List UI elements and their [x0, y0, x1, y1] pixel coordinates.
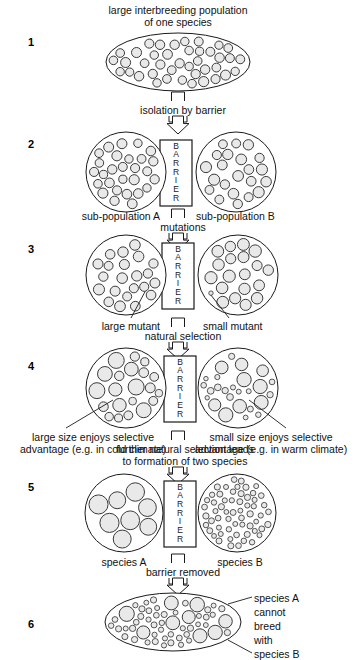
organism-cell: [253, 379, 267, 393]
organism-cell: [185, 62, 193, 70]
organism-cell: [149, 157, 158, 166]
organism-cell: [210, 612, 215, 617]
organism-cell: [104, 142, 114, 152]
organism-cell: [206, 47, 215, 56]
organism-cell: [252, 261, 262, 271]
barrier-letter: R: [175, 296, 181, 306]
label-sub-population-a: sub-population A: [46, 210, 160, 222]
organism-cell: [100, 513, 119, 532]
organism-cell: [131, 164, 140, 173]
label-final-line5: species B: [254, 648, 358, 660]
organism-cell: [249, 540, 254, 545]
organism-cell: [202, 504, 208, 510]
organism-cell: [229, 498, 234, 503]
organism-cell: [168, 632, 174, 638]
organism-cell: [244, 494, 250, 500]
connector-bracket-mutations: [172, 209, 185, 218]
organism-cell: [113, 530, 131, 548]
organism-cell: [205, 185, 214, 194]
organism-cell: [269, 379, 275, 385]
organism-cell: [215, 195, 224, 204]
organism-cell: [244, 193, 253, 202]
organism-cell: [239, 515, 245, 521]
label-final-line2: cannot: [254, 606, 358, 618]
organism-cell: [163, 75, 172, 84]
organism-cell: [184, 632, 190, 638]
organism-cell: [220, 180, 229, 189]
leader-line-final-species-b: [228, 640, 252, 653]
organism-cell: [223, 149, 233, 159]
organism-cell: [156, 60, 165, 69]
organism-cell: [170, 40, 179, 49]
organism-cell: [223, 270, 235, 282]
organism-cell: [115, 371, 124, 380]
organism-cell: [233, 171, 244, 182]
organism-cell: [158, 627, 163, 632]
organism-cell: [233, 521, 238, 526]
bracket-path: [172, 554, 185, 563]
step-number-1: 1: [28, 36, 34, 48]
organism-cell: [237, 499, 243, 505]
organism-cell: [136, 403, 151, 418]
organism-cell: [207, 387, 214, 394]
organism-cell: [139, 368, 149, 378]
organism-cell: [238, 478, 244, 484]
population-stage3_left: [86, 235, 166, 315]
organism-cell: [230, 385, 235, 390]
organism-cell: [164, 596, 178, 610]
organism-cell: [219, 408, 233, 422]
organism-cell: [265, 521, 271, 527]
organism-cell: [127, 199, 137, 209]
label-final-line4: with: [254, 634, 358, 646]
organism-cell: [246, 176, 256, 186]
label-final-line3: breed: [254, 620, 358, 632]
label-species-b: species B: [192, 556, 288, 568]
organism-cell: [133, 189, 143, 199]
organism-cell: [90, 167, 99, 176]
organism-cell: [230, 293, 241, 304]
organism-cell: [228, 537, 233, 542]
organism-cell: [146, 146, 156, 156]
organism-cell: [243, 415, 248, 420]
organism-cell: [110, 286, 120, 296]
organism-cell: [207, 528, 213, 534]
organism-cell: [93, 284, 104, 295]
organism-cell: [227, 394, 234, 401]
organism-cell: [150, 278, 160, 288]
organism-cell: [143, 167, 152, 176]
population-stage4_left: [86, 348, 166, 428]
organism-cell: [133, 619, 139, 625]
organism-cell: [123, 292, 132, 301]
label-small-advantage-line1: small size enjoys selective: [186, 431, 356, 443]
organism-cell: [155, 605, 160, 610]
organism-cell: [267, 392, 273, 398]
organism-cell: [178, 642, 183, 647]
organism-cell: [130, 352, 139, 361]
organism-cell: [228, 543, 234, 549]
organism-cell: [213, 259, 224, 270]
organism-cell: [105, 178, 115, 188]
barrier-stage3: BARRIER: [162, 243, 194, 309]
organism-cell: [235, 358, 248, 371]
organism-cell: [108, 623, 114, 629]
organism-cell: [145, 39, 154, 48]
organism-cell: [144, 600, 149, 605]
organism-cell: [217, 296, 229, 308]
bracket-path: [172, 318, 185, 327]
organism-cell: [95, 159, 104, 168]
organism-cell: [254, 519, 259, 524]
organism-cell: [263, 265, 273, 275]
organism-cell: [131, 636, 137, 642]
organism-cell: [215, 374, 220, 379]
organism-cell: [109, 383, 122, 396]
organism-cell: [240, 522, 245, 527]
organism-cell: [224, 510, 229, 515]
organism-cell: [109, 492, 126, 509]
label-small-advantage-line2: advantage (e.g. in warm climate): [180, 443, 362, 455]
organism-cell: [226, 527, 231, 532]
organism-cell: [129, 397, 137, 405]
step-number-4: 4: [28, 360, 34, 372]
organism-cell: [94, 179, 103, 188]
organism-cell: [140, 59, 149, 68]
